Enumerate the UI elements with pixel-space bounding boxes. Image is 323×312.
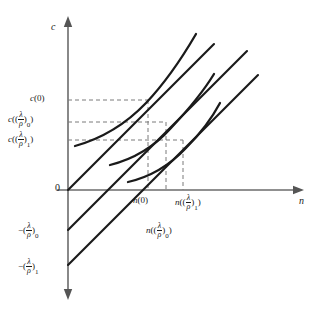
figure-container: c n 0 c(0) c((λρ)0) c((λρ)1) −(λρ)0 −(λρ… [0,0,323,312]
y-tick-label-c0: c(0) [30,94,45,103]
fraction-lambda-rho: λρ [18,131,24,149]
y-tick-label-neg-lambda-rho-0: −(λρ)0 [18,222,38,240]
y-tick-label-neg-lambda-rho-1: −(λρ)1 [18,258,38,276]
c-axis-arrow-up-icon [64,16,72,27]
budget-line-0 [68,44,214,190]
fraction-lambda-rho: λρ [157,222,163,240]
indifference-curve-0 [75,34,196,146]
indifference-curve-1 [110,74,214,165]
x-tick-label-n-lambda-rho-0: n((λρ)0) [146,222,172,240]
fraction-lambda-rho: λρ [18,111,24,129]
origin-label: 0 [55,183,60,193]
plot-canvas [0,0,323,312]
n-axis-arrow-right-icon [293,186,304,194]
fraction-lambda-rho: λρ [186,194,192,212]
c-axis-label: c [51,22,55,32]
fraction-lambda-rho: λρ [26,258,32,276]
y-tick-label-c-lambda-rho-0: c((λρ)0) [8,111,33,129]
fraction-lambda-rho: λρ [26,222,32,240]
n-axis-label: n [299,196,304,206]
guide-lines-group [68,100,183,190]
y-tick-label-c-lambda-rho-1: c((λρ)1) [8,131,33,149]
x-tick-label-n0: n(0) [133,196,148,205]
x-tick-label-n-lambda-rho-1: n((λρ)1) [175,194,201,212]
c-axis-arrow-down-icon [64,289,72,300]
